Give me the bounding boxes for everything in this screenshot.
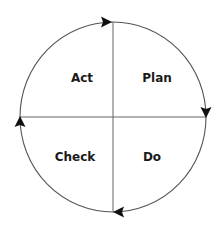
pdca-cycle-diagram: Act Plan Check Do bbox=[0, 0, 220, 230]
label-act: Act bbox=[71, 71, 93, 85]
arrow-right-icon bbox=[101, 17, 112, 28]
label-do: Do bbox=[143, 150, 161, 164]
label-check: Check bbox=[55, 150, 97, 164]
label-plan: Plan bbox=[142, 71, 172, 85]
